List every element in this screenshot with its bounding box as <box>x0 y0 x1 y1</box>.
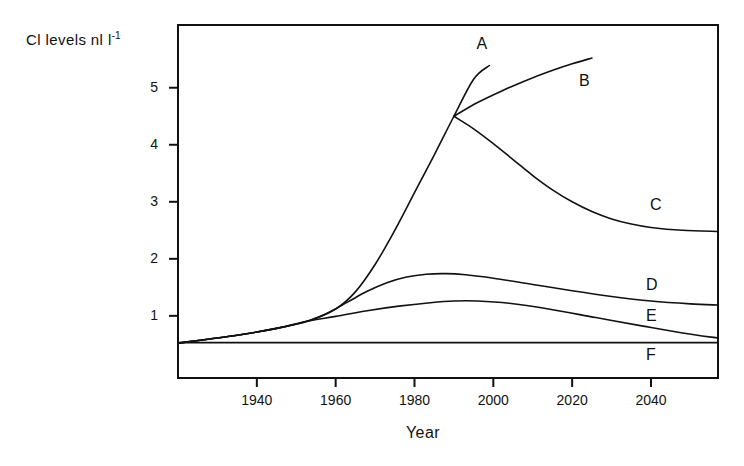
x-tick-label-2020: 2020 <box>547 392 597 408</box>
data-curves <box>178 58 718 343</box>
curve-label-b: B <box>579 72 590 90</box>
y-tick-label-1: 1 <box>134 307 158 323</box>
y-tick-label-2: 2 <box>134 250 158 266</box>
y-tick-label-3: 3 <box>134 193 158 209</box>
x-tick-label-2000: 2000 <box>468 392 518 408</box>
x-axis-title: Year <box>406 424 440 442</box>
curve-label-e: E <box>646 307 657 325</box>
curve-c <box>454 116 718 231</box>
curve-label-a: A <box>477 35 488 53</box>
x-tick-label-1980: 1980 <box>389 392 439 408</box>
curve-label-d: D <box>646 276 658 294</box>
y-tick-label-4: 4 <box>134 136 158 152</box>
x-tick-label-2040: 2040 <box>626 392 676 408</box>
chart-figure: Cl levels nl l-1 Year 12345 194019601980… <box>0 0 744 466</box>
x-tick-label-1960: 1960 <box>311 392 361 408</box>
curve-label-c: C <box>650 196 662 214</box>
y-axis-title: Cl levels nl l-1 <box>26 30 121 48</box>
x-tick-label-1940: 1940 <box>232 392 282 408</box>
y-axis-title-exponent: -1 <box>112 30 121 41</box>
y-axis-title-text: Cl levels nl l <box>26 31 112 48</box>
curve-label-f: F <box>646 346 656 364</box>
curve-d <box>178 274 718 344</box>
curve-e <box>178 301 718 343</box>
y-tick-label-5: 5 <box>134 79 158 95</box>
curve-b <box>454 58 592 116</box>
